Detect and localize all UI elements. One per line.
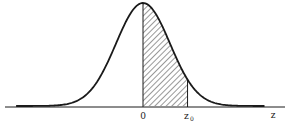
axis-label: z — [271, 110, 276, 120]
shaded-area — [143, 3, 188, 106]
z0-label-subscript: 0 — [190, 115, 194, 122]
origin-label: 0 — [140, 111, 146, 121]
density-curve — [16, 3, 264, 106]
normal-curve-diagram: 0 z 0 z — [0, 0, 290, 124]
z0-label: z 0 — [184, 111, 194, 122]
z0-label-main: z — [184, 111, 189, 121]
